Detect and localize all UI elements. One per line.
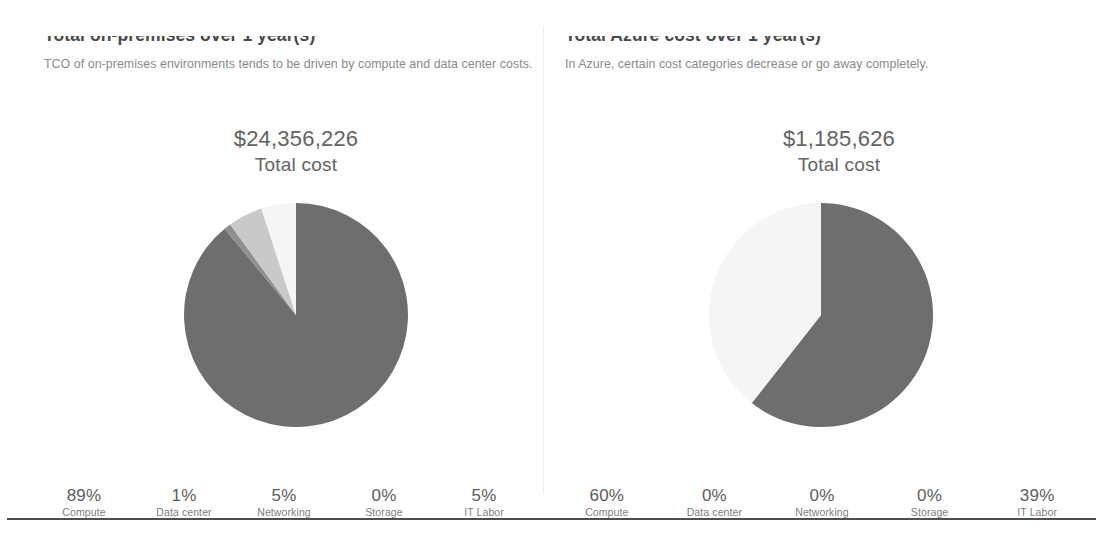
page-title-azure: Total Azure cost over 1 year(s) [565, 25, 821, 46]
total-cost-amount: $1,185,626 [719, 126, 959, 153]
pie-svg-azure [709, 203, 933, 427]
pie-chart-on-premises [184, 203, 408, 427]
legend-item-it-labor: 5% IT Labor [434, 486, 534, 519]
legend-percent: 5% [234, 486, 334, 505]
legend-item-data-center: 1% Data center [134, 486, 234, 519]
total-cost-on-premises: $24,356,226 Total cost [176, 126, 416, 176]
panel-azure: Total Azure cost over 1 year(s) In Azure… [543, 0, 1106, 548]
legend-percent: 39% [983, 486, 1091, 505]
legend-item-compute: 89% Compute [34, 486, 134, 519]
total-cost-azure: $1,185,626 Total cost [719, 126, 959, 176]
panel-on-premises: Total on-premises over 1 year(s) TCO of … [0, 0, 543, 548]
legend-percent: 1% [134, 486, 234, 505]
panel-subtitle-on-premises: TCO of on-premises environments tends to… [44, 57, 532, 71]
panel-subtitle-azure: In Azure, certain cost categories decrea… [565, 57, 928, 71]
total-cost-label: Total cost [719, 153, 959, 176]
tco-comparison-page: Total on-premises over 1 year(s) TCO of … [0, 0, 1106, 548]
total-cost-amount: $24,356,226 [176, 126, 416, 153]
legend-on-premises: 89% Compute 1% Data center 5% Networking… [34, 486, 534, 519]
legend-item-data-center: 0% Data center [661, 486, 769, 519]
legend-percent: 89% [34, 486, 134, 505]
page-title-on-premises: Total on-premises over 1 year(s) [44, 25, 315, 46]
legend-item-compute: 60% Compute [553, 486, 661, 519]
pie-chart-azure [709, 203, 933, 427]
legend-item-storage: 0% Storage [334, 486, 434, 519]
legend-percent: 60% [553, 486, 661, 505]
legend-item-networking: 0% Networking [768, 486, 876, 519]
bottom-rule [7, 518, 1096, 520]
total-cost-label: Total cost [176, 153, 416, 176]
legend-item-networking: 5% Networking [234, 486, 334, 519]
legend-percent: 5% [434, 486, 534, 505]
legend-percent: 0% [876, 486, 984, 505]
legend-item-storage: 0% Storage [876, 486, 984, 519]
legend-percent: 0% [661, 486, 769, 505]
pie-svg-on-premises [184, 203, 408, 427]
legend-percent: 0% [768, 486, 876, 505]
legend-item-it-labor: 39% IT Labor [983, 486, 1091, 519]
legend-percent: 0% [334, 486, 434, 505]
legend-azure: 60% Compute 0% Data center 0% Networking… [553, 486, 1091, 519]
